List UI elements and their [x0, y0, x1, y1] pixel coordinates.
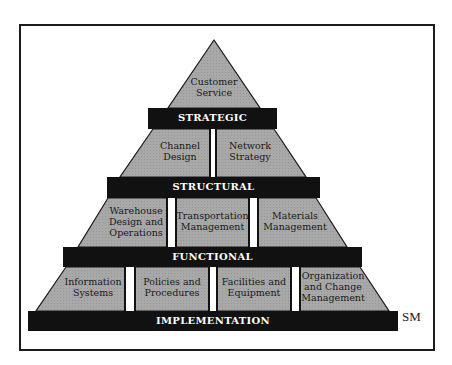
label-policies: Policies and Procedures	[135, 274, 209, 300]
label-customer-service: Customer Service	[184, 74, 244, 100]
band-label-implementation: IMPLEMENTATION	[28, 311, 398, 331]
label-transportation: Transportation Management	[176, 208, 249, 234]
label-facilities: Facilities and Equipment	[217, 274, 291, 300]
service-mark: SM	[402, 309, 421, 325]
label-warehouse: Warehouse Design and Operations	[106, 203, 166, 239]
band-label-structural: STRUCTURAL	[107, 177, 320, 197]
label-network-strategy: Network Strategy	[220, 138, 280, 164]
label-organization: Organization and Change Management	[300, 268, 366, 304]
label-information-systems: Information Systems	[62, 274, 124, 300]
label-materials: Materials Management	[260, 208, 330, 234]
band-label-functional: FUNCTIONAL	[63, 247, 362, 267]
label-channel-design: Channel Design	[150, 138, 210, 164]
band-label-strategic: STRATEGIC	[148, 108, 277, 128]
